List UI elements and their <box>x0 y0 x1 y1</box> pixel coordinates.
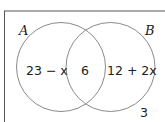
venn-diagram <box>0 0 165 122</box>
region-only-a: 23 − x <box>26 65 68 78</box>
region-outside: 3 <box>140 107 148 120</box>
set-a-label: A <box>19 24 28 37</box>
set-b-label: B <box>145 24 155 37</box>
region-only-b: 12 + 2x <box>107 65 157 78</box>
region-intersection: 6 <box>81 65 89 78</box>
